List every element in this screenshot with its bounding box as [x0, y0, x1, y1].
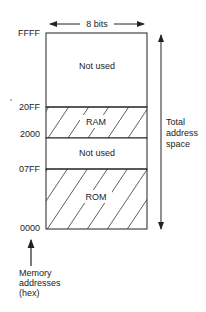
width-label: 8 bits [86, 19, 108, 29]
region-label: ROM [86, 192, 107, 202]
total-label: address [166, 128, 199, 138]
address-label: 0000 [20, 223, 40, 233]
axis-label: (hex) [19, 288, 40, 298]
address-label: 07FF [19, 164, 41, 174]
axis-label: Memory [19, 268, 52, 278]
address-label: 20FF [19, 102, 41, 112]
total-label: space [166, 139, 190, 149]
speck [10, 99, 11, 100]
total-label: Total [166, 117, 185, 127]
region-label: RAM [86, 117, 106, 127]
region-label: Not used [79, 61, 115, 71]
memory-map-diagram: 8 bits Not used RAM Not used ROM FFFF 20… [0, 0, 206, 312]
address-label: 2000 [20, 129, 40, 139]
axis-label: addresses [19, 278, 61, 288]
address-label: FFFF [18, 28, 40, 38]
region-label: Not used [79, 148, 115, 158]
